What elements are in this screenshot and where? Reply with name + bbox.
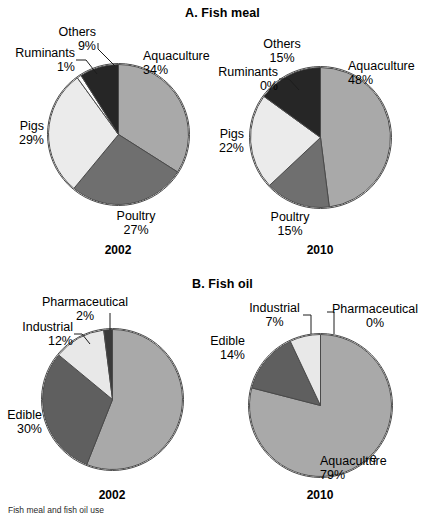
figure-caption: Fish meal and fish oil use: [8, 505, 437, 513]
figure-root: A. Fish meal 2002 Aquaculture 34% Poultr…: [0, 0, 445, 513]
leader-line-industrial-2010: [303, 315, 311, 334]
leader-lines-fishoil-2010: [0, 0, 445, 513]
leader-line-pharmaceutical-2010: [327, 312, 334, 334]
